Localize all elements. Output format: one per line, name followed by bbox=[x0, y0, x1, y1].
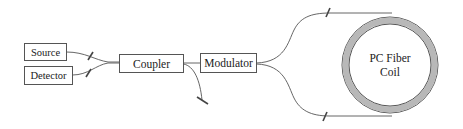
coil-label-line1: PC Fiber bbox=[369, 52, 410, 64]
detector-fiber bbox=[73, 63, 120, 75]
pc-fiber-coil: PC Fiber Coil bbox=[342, 17, 438, 113]
modulator-label: Modulator bbox=[204, 57, 253, 69]
source-label: Source bbox=[31, 47, 60, 58]
terminated-fiber bbox=[184, 64, 203, 100]
coupler-label: Coupler bbox=[133, 58, 170, 71]
modulator-block: Modulator bbox=[201, 54, 257, 73]
fiber-gyroscope-diagram: Source Detector Coupler Modulator PC Fib… bbox=[0, 0, 463, 129]
coupler-block: Coupler bbox=[120, 55, 184, 73]
detector-block: Detector bbox=[25, 67, 73, 85]
coil-top-splice-mark bbox=[326, 8, 330, 17]
detector-splice-mark bbox=[86, 69, 91, 77]
source-block: Source bbox=[25, 44, 67, 61]
detector-label: Detector bbox=[30, 70, 67, 81]
terminated-end-mark bbox=[197, 97, 208, 104]
coil-label-line2: Coil bbox=[380, 66, 400, 78]
coil-bottom-splice-mark bbox=[323, 112, 327, 121]
